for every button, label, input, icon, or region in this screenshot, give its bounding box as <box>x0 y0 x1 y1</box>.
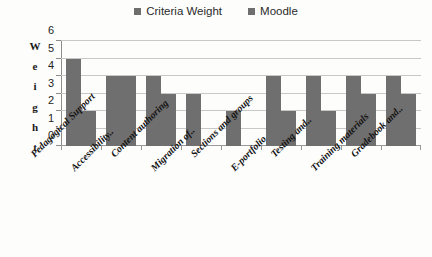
bar-chart: Criteria Weight Moodle W e i g h t 01234… <box>0 0 432 257</box>
bar <box>401 94 416 147</box>
y-axis-tick-label: 3 <box>48 77 54 88</box>
plot-area <box>61 41 421 146</box>
y-axis-tick-label: 5 <box>48 42 54 53</box>
legend-entry-moodle: Moodle <box>248 6 298 18</box>
bar <box>306 76 321 146</box>
legend-label: Moodle <box>260 6 298 18</box>
x-axis-category-labels: Pedagogical SupportAccessibility..Conten… <box>0 150 432 257</box>
y-axis-tick-label: 6 <box>48 25 54 36</box>
y-axis-tick-label: 4 <box>48 60 54 71</box>
legend-swatch-icon <box>134 8 141 15</box>
bar <box>266 76 281 146</box>
y-axis-tick-label: 1 <box>48 112 54 123</box>
y-axis-tick-label: 2 <box>48 95 54 106</box>
bars-layer <box>61 41 421 146</box>
legend-entry-criteria-weight: Criteria Weight <box>134 6 222 18</box>
legend-swatch-icon <box>248 8 255 15</box>
chart-legend: Criteria Weight Moodle <box>0 6 432 18</box>
legend-label: Criteria Weight <box>146 6 222 18</box>
